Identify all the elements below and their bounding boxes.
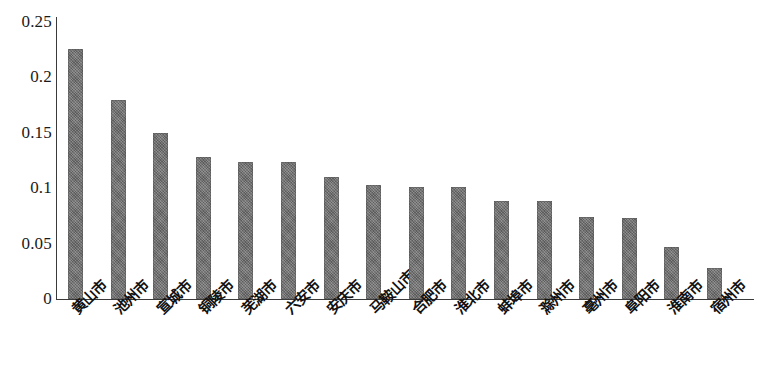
bar [111, 100, 126, 299]
bar [451, 187, 466, 299]
bar [622, 218, 637, 299]
bar [68, 49, 83, 299]
plot-area: 黄山市池州市宣城市铜陵市芜湖市六安市安庆市马鞍山市合肥市淮北市蚌埠市滁州市亳州市… [0, 0, 758, 388]
bar [324, 177, 339, 299]
bar [238, 162, 253, 299]
bar [537, 201, 552, 299]
bar [153, 133, 168, 299]
bar [409, 187, 424, 299]
bar [281, 162, 296, 299]
bar [579, 217, 594, 299]
bar [664, 247, 679, 299]
bar [196, 157, 211, 299]
bar [366, 185, 381, 299]
bar-chart: 00.050.10.150.20.25 黄山市池州市宣城市铜陵市芜湖市六安市安庆… [0, 0, 758, 388]
bar [494, 201, 509, 299]
